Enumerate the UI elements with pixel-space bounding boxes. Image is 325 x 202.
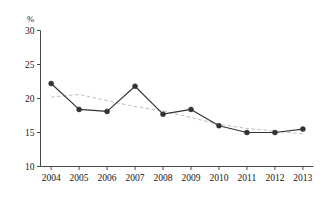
x-axis-tick-label: 2010: [209, 173, 228, 183]
y-axis-tick-label: 20: [25, 94, 35, 104]
y-axis-tick-label: 30: [25, 26, 35, 36]
x-axis-tick-label: 2008: [154, 173, 173, 183]
trendline-series: [51, 94, 303, 133]
chart-container: 1015202530%20042005200620072008200920102…: [0, 0, 325, 202]
data-point-marker: [77, 107, 82, 112]
y-axis-unit-label: %: [27, 14, 34, 24]
line-chart: 1015202530%20042005200620072008200920102…: [0, 0, 325, 202]
data-point-marker: [272, 130, 277, 135]
data-point-marker: [105, 109, 110, 114]
x-axis-tick-label: 2004: [42, 173, 61, 183]
chart-plot-area: 1015202530%20042005200620072008200920102…: [25, 14, 314, 184]
y-axis-tick-label: 25: [25, 60, 35, 70]
data-point-marker: [49, 81, 54, 86]
y-axis-tick-label: 15: [25, 128, 35, 138]
data-point-marker: [161, 112, 166, 117]
data-point-marker: [244, 130, 249, 135]
data-point-marker: [216, 123, 221, 128]
x-axis-tick-label: 2009: [181, 173, 200, 183]
x-axis-tick-label: 2006: [98, 173, 117, 183]
data-point-marker: [188, 107, 193, 112]
x-axis-tick-label: 2013: [293, 173, 312, 183]
x-axis-tick-label: 2011: [238, 173, 257, 183]
data-point-marker: [300, 127, 305, 132]
data-series-line: [51, 84, 303, 133]
x-axis-tick-label: 2012: [265, 173, 284, 183]
data-point-marker: [133, 84, 138, 89]
x-axis-tick-label: 2005: [70, 173, 89, 183]
x-axis-tick-label: 2007: [126, 173, 145, 183]
y-axis-tick-label: 10: [25, 162, 35, 172]
